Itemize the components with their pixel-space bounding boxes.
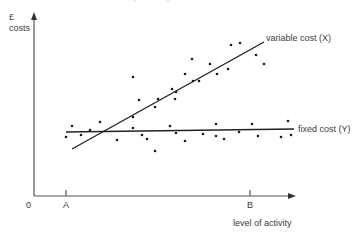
data-point [192,80,195,83]
data-point [175,132,178,135]
cost-behaviour-chart: £ costs 0 A B level of activity variable… [0,0,360,234]
data-point [169,125,172,128]
data-point [175,91,178,94]
clipped-title-fragment [134,0,169,2]
data-point [71,125,74,128]
data-point [230,44,233,47]
data-point [263,63,266,66]
data-point [215,135,218,138]
data-point [280,136,283,139]
data-point [184,73,187,76]
fixed-cost-line [66,129,294,132]
data-point [251,123,254,126]
data-point [132,116,135,119]
data-point [80,134,83,137]
data-point [89,129,92,132]
data-point [215,123,218,126]
x-axis-label: level of activity [233,218,292,228]
data-point [146,138,149,141]
data-point [257,135,260,138]
data-point [174,98,177,101]
data-point [255,54,258,57]
origin-label: 0 [26,200,31,210]
data-point [65,136,68,139]
data-point [223,138,226,141]
variable-cost-label: variable cost (X) [266,33,331,43]
y-axis-arrow-icon [31,12,37,20]
data-point [227,68,230,71]
data-point [99,121,102,124]
data-point [154,150,157,153]
tick-b-label: B [247,200,253,210]
y-unit-label: £ [9,12,14,22]
data-point [132,76,135,79]
fixed-cost-label: fixed cost (Y) [298,124,351,134]
data-point [287,120,290,123]
y-axis-label: costs [9,23,31,33]
data-point [184,140,187,143]
data-point [138,99,141,102]
data-point [154,106,157,109]
variable-cost-line [72,42,264,149]
data-point [171,88,174,91]
data-point [132,127,135,130]
data-point [191,58,194,61]
x-axis-arrow-icon [288,193,296,199]
data-point [209,63,212,66]
data-point [116,139,119,142]
scatter-points [65,42,293,153]
data-point [141,134,144,137]
data-point [239,42,242,45]
data-point [216,73,219,76]
data-point [290,134,293,137]
data-point [157,98,160,101]
data-point [202,133,205,136]
data-point [238,131,241,134]
data-point [198,80,201,83]
tick-a-label: A [63,200,69,210]
